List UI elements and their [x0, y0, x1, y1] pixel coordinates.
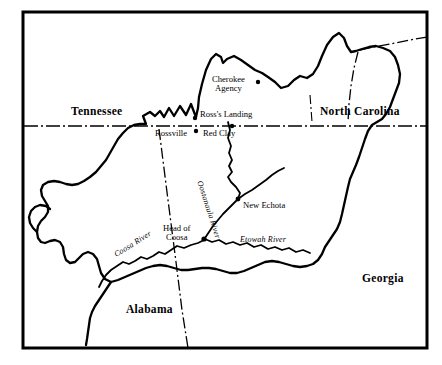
- place-dot-rossville: [194, 129, 198, 133]
- place-dot-ross-landing: [193, 116, 197, 120]
- state-label-alabama: Alabama: [126, 303, 173, 315]
- place-label-rossville: Rossville: [155, 129, 187, 138]
- river-label-etowah: Etowah River: [240, 236, 286, 244]
- state-label-georgia: Georgia: [362, 272, 404, 284]
- place-dot-cherokee-agency: [256, 80, 260, 84]
- place-label-cherokee-agency: Cherokee Agency: [212, 75, 245, 92]
- state-label-tennessee: Tennessee: [71, 105, 122, 117]
- map-canvas: [0, 0, 442, 365]
- place-label-head-of-coosa: Head of Coosa: [163, 224, 190, 241]
- place-label-cherokee-agency-line2: Agency: [212, 84, 245, 93]
- cherokee-nation-map: Tennessee North Carolina Georgia Alabama…: [0, 0, 442, 365]
- place-label-new-echota: New Echota: [243, 201, 285, 210]
- place-dot-new-echota: [236, 197, 241, 202]
- place-dot-head-of-coosa: [201, 236, 206, 241]
- place-label-head-of-coosa-line2: Coosa: [163, 233, 190, 242]
- place-label-ross-landing: Ross's Landing: [200, 110, 252, 119]
- place-label-red-clay: Red Clay: [203, 129, 235, 138]
- state-label-north-carolina: North Carolina: [320, 105, 400, 117]
